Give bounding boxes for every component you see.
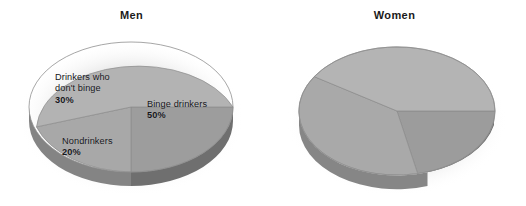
slice-label-drinkers-who-dont-binge: Drinkers who don't binge 30% — [55, 72, 110, 106]
chart-panel-women: Women — [263, 0, 526, 206]
slice-label-line1: Binge drinkers — [147, 99, 207, 110]
slice-value-drinkers-who-dont-binge: 30% — [55, 95, 110, 106]
slice-label-line1: Drinkers who — [55, 72, 110, 83]
chart-panel-men: Men — [0, 0, 263, 206]
slice-label-nondrinkers: Nondrinkers 20% — [62, 136, 113, 159]
slice-label-binge-drinkers: Binge drinkers 50% — [147, 99, 207, 122]
slice-label-line1: Nondrinkers — [62, 136, 113, 147]
slice-label-line2: don't binge — [55, 83, 110, 94]
pie-label-layer-men: Drinkers who don't binge 30% Nondrinkers… — [0, 0, 263, 206]
pie-label-layer-women: Drinkers who don't binge 41% Nondrinkers… — [263, 0, 526, 206]
slice-value-binge-drinkers: 50% — [147, 110, 207, 121]
slice-value-nondrinkers: 20% — [62, 147, 113, 158]
pie-chart-figure: Men — [0, 0, 526, 206]
